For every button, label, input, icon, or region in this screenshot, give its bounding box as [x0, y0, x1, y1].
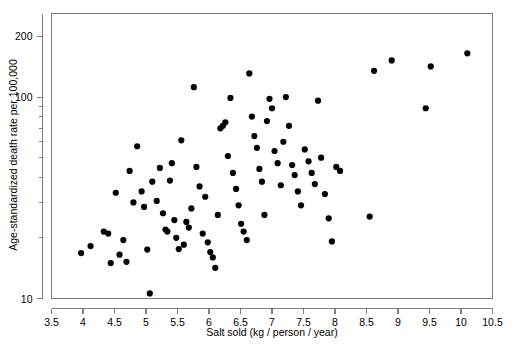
x-tick-label: 9.5 — [422, 316, 437, 328]
data-point — [178, 137, 184, 143]
data-point — [123, 259, 129, 265]
data-point — [241, 228, 247, 234]
data-point — [149, 179, 155, 185]
data-point — [259, 179, 265, 185]
data-point — [305, 158, 311, 164]
data-point — [326, 215, 332, 221]
data-point — [188, 205, 194, 211]
x-tick-label: 3.5 — [44, 316, 59, 328]
data-point — [215, 212, 221, 218]
data-point — [181, 242, 187, 248]
data-point — [196, 183, 202, 189]
y-axis-minor-ticks — [39, 106, 43, 238]
x-axis-title: Salt sold (kg / person / year) — [206, 326, 337, 338]
data-point — [264, 118, 270, 124]
data-point — [244, 237, 250, 243]
data-point — [186, 224, 192, 230]
data-point — [176, 246, 182, 252]
data-point — [246, 70, 252, 76]
data-point — [105, 231, 111, 237]
data-point — [193, 164, 199, 170]
data-point — [367, 214, 373, 220]
data-point — [144, 246, 150, 252]
data-point — [205, 239, 211, 245]
data-point — [171, 217, 177, 223]
data-point — [256, 166, 262, 172]
scatter-plot-figure: 3.544.555.566.577.588.599.51010.5 101002… — [0, 0, 516, 345]
data-point — [108, 260, 114, 266]
x-tick-label: 4 — [80, 316, 86, 328]
data-point — [266, 96, 272, 102]
data-point — [318, 155, 324, 161]
data-point — [289, 162, 295, 168]
x-tick-label: 10.5 — [482, 316, 503, 328]
data-point — [298, 202, 304, 208]
x-tick-label: 5.5 — [170, 316, 185, 328]
data-point — [302, 146, 308, 152]
data-point — [271, 148, 277, 154]
data-point — [173, 235, 179, 241]
data-point — [200, 231, 206, 237]
data-point — [141, 204, 147, 210]
x-tick-label: 8.5 — [359, 316, 374, 328]
data-point — [261, 212, 267, 218]
data-point — [222, 119, 228, 125]
data-point — [207, 249, 213, 255]
x-axis-ticks — [52, 309, 493, 314]
data-point — [309, 170, 315, 176]
data-points-group — [78, 50, 470, 296]
data-point — [233, 186, 239, 192]
y-axis-title: Age-standardized death rate per 100,000 — [7, 59, 19, 251]
x-tick-label: 4.5 — [107, 316, 122, 328]
data-point — [169, 160, 175, 166]
data-point — [160, 210, 166, 216]
x-tick-label: 9 — [395, 316, 401, 328]
data-point — [202, 194, 208, 200]
data-point — [164, 228, 170, 234]
data-point — [212, 265, 218, 271]
y-axis-major-ticks — [37, 14, 43, 299]
data-point — [230, 170, 236, 176]
data-point — [238, 221, 244, 227]
y-tick-label: 10 — [21, 293, 33, 305]
data-point — [295, 188, 301, 194]
data-point — [254, 145, 260, 151]
data-point — [134, 143, 140, 149]
x-tick-label: 5 — [143, 316, 149, 328]
y-tick-label: 200 — [15, 30, 33, 42]
data-point — [269, 105, 275, 111]
chart-canvas: 3.544.555.566.577.588.599.51010.5 101002… — [0, 0, 516, 345]
data-point — [371, 68, 377, 74]
data-point — [251, 133, 257, 139]
data-point — [120, 237, 126, 243]
data-point — [423, 105, 429, 111]
data-point — [329, 238, 335, 244]
data-point — [283, 94, 289, 100]
data-point — [191, 84, 197, 90]
data-point — [78, 250, 84, 256]
data-point — [249, 114, 255, 120]
data-point — [225, 153, 231, 159]
data-point — [292, 172, 298, 178]
data-point — [167, 177, 173, 183]
data-point — [154, 198, 160, 204]
data-point — [157, 165, 163, 171]
data-point — [183, 219, 189, 225]
data-point — [113, 190, 119, 196]
data-point — [322, 191, 328, 197]
data-point — [87, 243, 93, 249]
data-point — [315, 98, 321, 104]
data-point — [280, 139, 286, 145]
x-tick-label: 10 — [455, 316, 467, 328]
data-point — [138, 188, 144, 194]
data-point — [286, 123, 292, 129]
data-point — [275, 160, 281, 166]
data-point — [116, 252, 122, 258]
data-point — [337, 168, 343, 174]
data-point — [428, 63, 434, 69]
data-point — [227, 95, 233, 101]
data-point — [312, 181, 318, 187]
data-point — [210, 254, 216, 260]
data-point — [130, 199, 136, 205]
data-point — [236, 202, 242, 208]
